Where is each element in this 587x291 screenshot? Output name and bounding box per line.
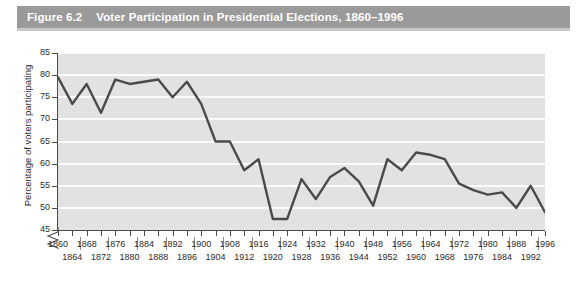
x-axis-tick	[545, 231, 546, 236]
x-axis-tick	[330, 231, 331, 236]
x-axis-tick-label: 1992	[511, 252, 551, 262]
x-axis-tick	[273, 231, 274, 236]
x-axis-tick	[387, 231, 388, 236]
x-axis-tick	[459, 231, 460, 236]
x-axis-tick	[101, 231, 102, 236]
x-axis-tick	[359, 231, 360, 236]
series-line-chart	[58, 53, 545, 230]
x-axis-tick-label: 1996	[525, 239, 565, 249]
x-axis-tick	[87, 231, 88, 236]
y-axis-tick	[52, 119, 57, 120]
x-axis-tick	[187, 231, 188, 236]
figure-number: Figure 6.2	[27, 11, 82, 23]
y-axis-tick-label: 70	[26, 114, 50, 123]
x-axis-tick	[173, 231, 174, 236]
y-axis-tick	[52, 53, 57, 54]
x-axis-tick	[502, 231, 503, 236]
x-axis-tick	[430, 231, 431, 236]
x-axis-tick	[402, 231, 403, 236]
x-axis-tick	[158, 231, 159, 236]
y-axis-tick-label: 55	[26, 181, 50, 190]
plot-area	[58, 53, 545, 230]
x-axis-tick	[244, 231, 245, 236]
x-axis-tick	[373, 231, 374, 236]
y-axis-tick	[52, 142, 57, 143]
y-axis-tick-label: 50	[26, 203, 50, 212]
x-axis-tick	[230, 231, 231, 236]
figure-page: Figure 6.2 Voter Participation in Presid…	[0, 0, 587, 291]
y-axis-tick-label: 65	[26, 137, 50, 146]
x-axis-tick	[302, 231, 303, 236]
x-axis-tick	[72, 231, 73, 236]
x-axis-tick	[473, 231, 474, 236]
y-axis-tick	[52, 208, 57, 209]
x-axis-tick	[516, 231, 517, 236]
x-axis-tick	[201, 231, 202, 236]
x-axis-tick	[488, 231, 489, 236]
y-axis-tick-label: 60	[26, 159, 50, 168]
x-axis-tick	[416, 231, 417, 236]
y-axis-tick-label: 85	[26, 48, 50, 57]
y-axis-line	[57, 53, 58, 230]
y-axis-tick	[52, 164, 57, 165]
voter-participation-line	[58, 77, 545, 219]
y-axis-tick-label: 75	[26, 92, 50, 101]
x-axis-tick	[115, 231, 116, 236]
x-axis-tick	[130, 231, 131, 236]
y-axis-tick	[52, 186, 57, 187]
y-axis-tick-label: 80	[26, 70, 50, 79]
x-axis-tick	[531, 231, 532, 236]
x-axis-tick	[144, 231, 145, 236]
x-axis-tick	[287, 231, 288, 236]
x-axis-tick	[259, 231, 260, 236]
x-axis-tick	[445, 231, 446, 236]
x-axis-tick	[216, 231, 217, 236]
x-axis-tick	[344, 231, 345, 236]
figure-title-bar: Figure 6.2 Voter Participation in Presid…	[17, 6, 570, 28]
figure-title: Voter Participation in Presidential Elec…	[96, 11, 403, 23]
x-axis-tick	[58, 231, 59, 236]
chart-area: Percentage of voters participating 45505…	[0, 34, 587, 291]
x-axis-tick	[316, 231, 317, 236]
y-axis-tick	[52, 97, 57, 98]
y-axis-tick	[52, 75, 57, 76]
